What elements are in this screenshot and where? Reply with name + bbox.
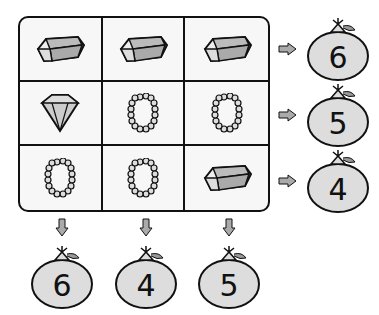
gold-bar-icon: [199, 158, 255, 198]
cell-0-1: [103, 18, 186, 82]
arrow-down-icon: [55, 218, 69, 238]
row-sum-value: 4: [303, 172, 373, 207]
cell-1-1: [103, 82, 186, 146]
cell-0-2: [185, 18, 268, 82]
cell-2-0: [20, 146, 103, 210]
gold-bar-icon: [32, 29, 88, 69]
arrow-right-icon: [278, 42, 298, 56]
row-sum-bag: 4: [303, 144, 373, 214]
pearl-necklace-icon: [120, 93, 166, 133]
pearl-necklace-icon: [204, 93, 250, 133]
column-sum-value: 6: [27, 268, 97, 303]
arrow-right-icon: [278, 174, 298, 188]
pearl-necklace-icon: [37, 158, 83, 198]
arrow-down-icon: [139, 218, 153, 238]
arrow-right-icon: [278, 108, 298, 122]
column-sum-value: 5: [194, 268, 264, 303]
row-sum-bag: 6: [303, 12, 373, 82]
cell-1-0: [20, 82, 103, 146]
puzzle-grid: [18, 16, 270, 212]
cell-1-2: [185, 82, 268, 146]
cell-2-2: [185, 146, 268, 210]
column-sum-bag: 6: [27, 240, 97, 310]
cell-2-1: [103, 146, 186, 210]
column-sum-bag: 5: [194, 240, 264, 310]
gold-bar-icon: [199, 29, 255, 69]
row-sum-bag: 5: [303, 78, 373, 148]
row-sum-value: 6: [303, 40, 373, 75]
gold-bar-icon: [115, 29, 171, 69]
arrow-down-icon: [222, 218, 236, 238]
cell-0-0: [20, 18, 103, 82]
column-sum-value: 4: [111, 268, 181, 303]
pearl-necklace-icon: [120, 158, 166, 198]
diamond-icon: [32, 91, 88, 135]
row-sum-value: 5: [303, 106, 373, 141]
column-sum-bag: 4: [111, 240, 181, 310]
